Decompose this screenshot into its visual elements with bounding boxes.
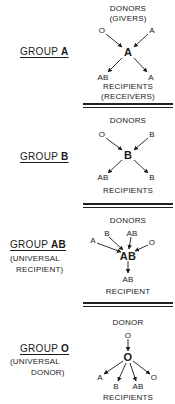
recipient-b: B [149, 173, 155, 182]
arrow-a-donor-o [106, 34, 122, 47]
recipient-b: B [113, 382, 119, 391]
divider-line [83, 207, 173, 209]
recipient-ab: AB [132, 382, 143, 391]
donor-b: B [149, 130, 155, 139]
recipients-header: RECIPIENTS [103, 393, 153, 402]
recipient-a: A [148, 73, 154, 82]
donor-o: O [99, 26, 105, 35]
donor-ab: AB [126, 229, 137, 238]
group-note-line2: DONOR) [31, 368, 65, 378]
arrow-b-recipient-b [134, 160, 148, 173]
donors-header: DONORS [110, 216, 146, 225]
group-note-line1: (UNIVERSAL [10, 357, 60, 367]
donors-header: DONORS [110, 4, 146, 13]
recipients-subheader: (RECEIVERS) [101, 92, 155, 101]
group-label-prefix: GROUP [20, 46, 61, 57]
divider-line [83, 302, 173, 304]
arrow-b-donor-b [134, 138, 148, 150]
arrow-a-recipient-ab [108, 58, 122, 72]
center-blood-type: B [124, 149, 132, 161]
divider-line [83, 203, 173, 205]
arrow-ab-donor-o [135, 245, 148, 251]
arrow-o-recipient-o [133, 361, 150, 374]
group-label-prefix: GROUP [20, 151, 61, 162]
arrow-b-donor-o [106, 138, 122, 150]
recipients-header: RECIPIENTS [103, 186, 153, 195]
group-type: A [61, 46, 69, 57]
arrow-o-recipient-b [118, 363, 126, 381]
donors-header: DONORS [110, 116, 146, 125]
donor-o: O [125, 331, 131, 340]
donor-o: O [99, 130, 105, 139]
arrow-a-recipient-a [134, 58, 147, 72]
donor-a: A [90, 236, 96, 245]
divider-line [83, 107, 173, 109]
donor-b: B [104, 229, 110, 238]
group-note-line2: RECIPIENT) [16, 265, 63, 275]
group-ab-label: GROUP AB [10, 239, 66, 250]
recipients-header: RECIPIENT [106, 287, 150, 296]
recipient-o: O [151, 373, 157, 382]
recipients-header: RECIPIENTS [103, 82, 153, 91]
group-label-prefix: GROUP [10, 239, 51, 250]
donors-header: DONOR [113, 318, 144, 327]
recipient-a: A [97, 373, 103, 382]
donor-a: A [149, 26, 155, 35]
divider-line [83, 306, 173, 308]
group-o-label: GROUP O [20, 343, 69, 354]
center-blood-type: AB [120, 250, 136, 262]
group-b-label: GROUP B [20, 151, 69, 162]
group-note-line1: (UNIVERSAL [10, 254, 60, 264]
center-blood-type: A [124, 46, 132, 58]
arrow-b-recipient-ab [108, 160, 122, 173]
donors-subheader: (GIVERS) [109, 14, 146, 23]
center-blood-type: O [124, 351, 133, 363]
group-type: AB [51, 239, 66, 250]
recipient-ab: AB [97, 173, 108, 182]
arrow-o-recipient-a [104, 361, 123, 374]
recipient-ab: AB [97, 73, 108, 82]
group-label-prefix: GROUP [20, 343, 61, 354]
donor-o: O [149, 238, 155, 247]
arrow-a-donor-a [134, 34, 148, 47]
group-type: B [61, 151, 69, 162]
arrow-o-recipient-ab [130, 363, 136, 381]
group-a-label: GROUP A [20, 46, 69, 57]
divider-line [83, 103, 173, 105]
group-type: O [61, 343, 69, 354]
recipient-ab: AB [122, 275, 133, 284]
arrow-ab-donor-ab [129, 237, 131, 249]
